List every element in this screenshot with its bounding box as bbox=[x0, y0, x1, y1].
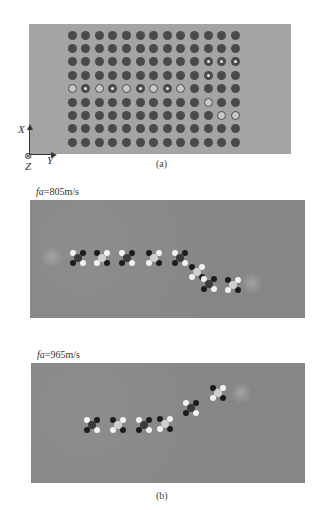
solid-rod bbox=[149, 57, 158, 66]
solid-rod bbox=[68, 111, 77, 120]
field-lobe bbox=[104, 260, 110, 266]
field-lobe bbox=[156, 260, 162, 266]
solid-rod bbox=[231, 124, 240, 133]
solid-rod bbox=[204, 124, 213, 133]
solid-rod bbox=[136, 31, 145, 40]
ring-rod bbox=[231, 111, 240, 120]
solid-rod bbox=[217, 124, 226, 133]
field-mode-node bbox=[110, 417, 126, 433]
ring-rod bbox=[68, 84, 77, 93]
solid-rod bbox=[122, 57, 131, 66]
field-mode-node bbox=[119, 250, 135, 266]
z-axis-label: Z bbox=[25, 160, 31, 172]
frequency-value: =965m/s bbox=[45, 349, 80, 360]
y-axis-label: Y bbox=[47, 154, 53, 166]
solid-rod bbox=[81, 111, 90, 120]
solid-rod bbox=[136, 138, 145, 147]
solid-rod bbox=[95, 31, 104, 40]
solid-rod bbox=[95, 57, 104, 66]
field-mode-node bbox=[136, 417, 152, 433]
solid-rod bbox=[176, 111, 185, 120]
solid-rod bbox=[217, 71, 226, 80]
crystal-structure-panel bbox=[29, 24, 291, 154]
field-core bbox=[187, 404, 195, 412]
solid-rod bbox=[149, 44, 158, 53]
ring-rod bbox=[217, 111, 226, 120]
field-mode-node bbox=[84, 417, 100, 433]
solid-rod bbox=[190, 138, 199, 147]
solid-rod bbox=[122, 98, 131, 107]
solid-rod bbox=[136, 124, 145, 133]
field-plot-805 bbox=[30, 200, 305, 318]
solid-rod bbox=[95, 124, 104, 133]
frequency-value: =805m/s bbox=[44, 186, 79, 197]
field-core bbox=[193, 268, 201, 276]
solid-rod bbox=[108, 98, 117, 107]
solid-rod bbox=[95, 44, 104, 53]
field-plot-965 bbox=[31, 363, 305, 483]
solid-rod bbox=[122, 111, 131, 120]
solid-rod bbox=[136, 111, 145, 120]
field-mode-node bbox=[70, 250, 86, 266]
solid-rod bbox=[163, 57, 172, 66]
ring-rod bbox=[149, 84, 158, 93]
hollow-rod bbox=[136, 84, 145, 93]
solid-rod bbox=[68, 138, 77, 147]
solid-rod bbox=[217, 44, 226, 53]
solid-rod bbox=[136, 71, 145, 80]
solid-rod bbox=[176, 57, 185, 66]
solid-rod bbox=[108, 138, 117, 147]
solid-rod bbox=[149, 111, 158, 120]
solid-rod bbox=[68, 98, 77, 107]
field-lobe bbox=[211, 286, 217, 292]
solid-rod bbox=[176, 138, 185, 147]
solid-rod bbox=[204, 84, 213, 93]
solid-rod bbox=[81, 124, 90, 133]
solid-rod bbox=[163, 111, 172, 120]
field-mode-node bbox=[210, 385, 226, 401]
solid-rod bbox=[163, 98, 172, 107]
solid-rod bbox=[190, 71, 199, 80]
panel-a-caption: (a) bbox=[156, 158, 167, 169]
field-glow bbox=[230, 382, 252, 404]
solid-rod bbox=[176, 44, 185, 53]
field-mode-node bbox=[183, 400, 199, 416]
solid-rod bbox=[68, 57, 77, 66]
solid-rod bbox=[108, 124, 117, 133]
ring-rod bbox=[204, 98, 213, 107]
frequency-label-965: fa=965m/s bbox=[37, 349, 80, 360]
hollow-rod bbox=[163, 84, 172, 93]
hollow-rod bbox=[108, 84, 117, 93]
frequency-label-805: fa=805m/s bbox=[36, 186, 79, 197]
field-core bbox=[161, 420, 169, 428]
frequency-symbol: fa bbox=[36, 186, 44, 197]
hollow-rod bbox=[204, 71, 213, 80]
solid-rod bbox=[163, 124, 172, 133]
solid-rod bbox=[190, 31, 199, 40]
solid-rod bbox=[68, 71, 77, 80]
solid-rod bbox=[95, 71, 104, 80]
solid-rod bbox=[204, 138, 213, 147]
field-glow bbox=[241, 272, 263, 294]
solid-rod bbox=[217, 31, 226, 40]
frequency-symbol: fa bbox=[37, 349, 45, 360]
field-core bbox=[150, 254, 158, 262]
solid-rod bbox=[68, 31, 77, 40]
solid-rod bbox=[217, 98, 226, 107]
field-lobe bbox=[146, 427, 152, 433]
field-core bbox=[229, 281, 237, 289]
field-lobe bbox=[120, 427, 126, 433]
field-mode-node bbox=[172, 250, 188, 266]
solid-rod bbox=[176, 71, 185, 80]
hollow-rod bbox=[231, 57, 240, 66]
field-core bbox=[88, 421, 96, 429]
solid-rod bbox=[81, 57, 90, 66]
field-lobe bbox=[80, 260, 86, 266]
solid-rod bbox=[204, 44, 213, 53]
solid-rod bbox=[81, 44, 90, 53]
field-core bbox=[205, 280, 213, 288]
solid-rod bbox=[217, 138, 226, 147]
field-glow bbox=[41, 246, 63, 268]
solid-rod bbox=[108, 44, 117, 53]
solid-rod bbox=[81, 138, 90, 147]
